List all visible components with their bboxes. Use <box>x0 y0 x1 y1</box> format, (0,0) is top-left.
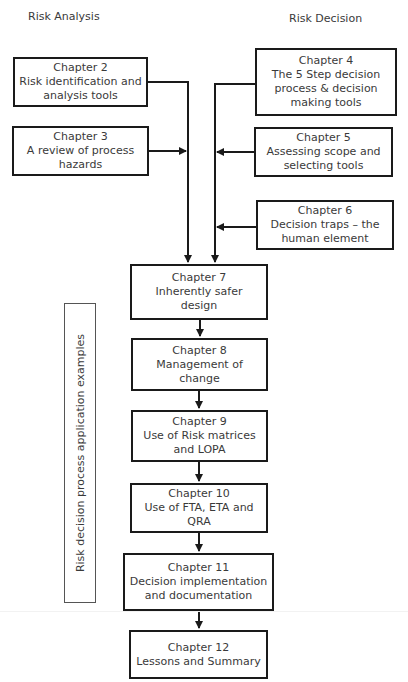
side-label: Risk decision process application exampl… <box>74 334 87 572</box>
chapter-9-box: Chapter 9 Use of Risk matrices and LOPA <box>131 410 268 462</box>
chapter-line: design <box>181 299 218 313</box>
chapter-line: QRA <box>187 515 210 529</box>
chapter-line: Inherently safer <box>156 285 243 299</box>
chapter-title: Chapter 8 <box>172 344 226 358</box>
chapter-line: Decision implementation <box>130 575 267 589</box>
chapter-line: making tools <box>291 96 362 110</box>
chapter-title: Chapter 11 <box>168 561 229 575</box>
chapter-12-box: Chapter 12 Lessons and Summary <box>129 630 268 679</box>
chapter-line: A review of process <box>27 144 134 158</box>
chapter-title: Chapter 5 <box>296 131 350 145</box>
chapter-line: The 5 Step decision <box>272 68 380 82</box>
chapter-title: Chapter 3 <box>53 130 107 144</box>
chapter-title: Chapter 12 <box>168 641 229 655</box>
chapter-5-box: Chapter 5 Assessing scope and selecting … <box>254 127 393 177</box>
chapter-2-box: Chapter 2 Risk identification and analys… <box>13 57 148 107</box>
chapter-title: Chapter 2 <box>53 61 107 75</box>
chapter-line: and documentation <box>145 589 253 603</box>
chapter-3-box: Chapter 3 A review of process hazards <box>12 126 149 176</box>
chapter-line: process & decision <box>274 82 377 96</box>
chapter-line: Use of FTA, ETA and <box>144 501 253 515</box>
chapter-line: hazards <box>59 158 102 172</box>
chapter-line: Assessing scope and <box>266 145 380 159</box>
chapter-title: Chapter 6 <box>298 204 352 218</box>
side-label-box: Risk decision process application exampl… <box>64 303 96 603</box>
chapter-line: selecting tools <box>284 159 364 173</box>
chapter-title: Chapter 9 <box>172 415 226 429</box>
chapter-10-box: Chapter 10 Use of FTA, ETA and QRA <box>130 483 268 533</box>
chapter-11-box: Chapter 11 Decision implementation and d… <box>123 553 274 611</box>
chapter-line: Use of Risk matrices <box>143 429 255 443</box>
page-divider <box>0 611 408 612</box>
chapter-line: Risk identification and <box>19 75 141 89</box>
chapter-title: Chapter 4 <box>299 54 353 68</box>
chapter-line: Decision traps – the <box>270 218 379 232</box>
chapter-line: Lessons and Summary <box>136 655 260 669</box>
chapter-title: Chapter 10 <box>168 487 229 501</box>
chapter-line: and LOPA <box>173 443 225 457</box>
chapter-line: change <box>179 372 219 386</box>
chapter-4-box: Chapter 4 The 5 Step decision process & … <box>255 48 397 116</box>
chapter-7-box: Chapter 7 Inherently safer design <box>130 264 268 320</box>
chapter-line: analysis tools <box>43 89 118 103</box>
chapter-title: Chapter 7 <box>172 271 226 285</box>
chapter-line: human element <box>281 232 368 246</box>
chapter-6-box: Chapter 6 Decision traps – the human ele… <box>256 200 394 250</box>
chapter-8-box: Chapter 8 Management of change <box>131 338 268 391</box>
chapter-line: Management of <box>156 358 243 372</box>
